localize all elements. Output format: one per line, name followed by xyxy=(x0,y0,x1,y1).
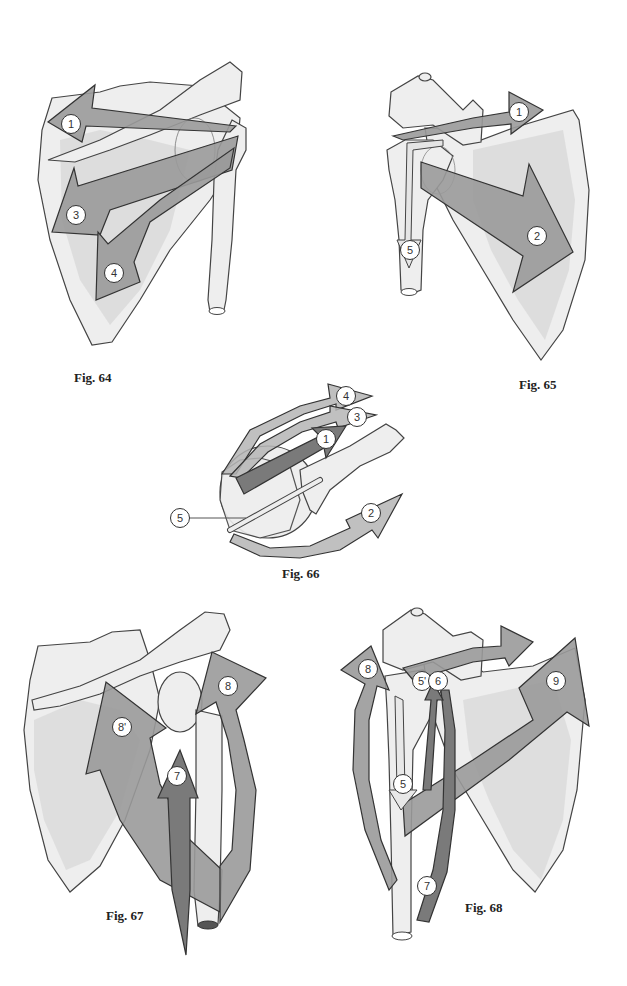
marker-5: 5 xyxy=(170,508,190,528)
figure-caption: Fig. 67 xyxy=(106,908,144,924)
marker-1: 1 xyxy=(509,102,529,122)
marker-1: 1 xyxy=(61,114,81,134)
figure-67: 8 8' 7 Fig. 67 xyxy=(0,590,313,986)
marker-1: 1 xyxy=(316,429,336,449)
marker-9: 9 xyxy=(546,671,566,691)
figure-caption: Fig. 66 xyxy=(282,566,320,582)
marker-5: 5 xyxy=(400,240,420,260)
figure-66: 4 3 1 2 5 Fig. 66 xyxy=(150,370,450,590)
figure-68: 8 5' 6 9 5 7 Fig. 68 xyxy=(313,590,627,986)
figure-caption: Fig. 68 xyxy=(465,900,503,916)
shoulder-superior-illustration xyxy=(150,370,450,590)
marker-3: 3 xyxy=(66,205,86,225)
figure-64: 1 3 4 Fig. 64 xyxy=(0,0,313,400)
marker-4: 4 xyxy=(104,263,124,283)
shoulder-anterior-illustration xyxy=(313,590,627,986)
marker-7: 7 xyxy=(417,876,437,896)
marker-4: 4 xyxy=(336,386,356,406)
marker-8: 8 xyxy=(218,676,238,696)
shoulder-posterior-illustration xyxy=(0,590,313,986)
marker-8-prime: 8' xyxy=(112,717,132,737)
figure-65: 1 2 5 Fig. 65 xyxy=(313,0,627,400)
marker-7: 7 xyxy=(167,766,187,786)
marker-3: 3 xyxy=(347,407,367,427)
figure-caption: Fig. 65 xyxy=(519,377,557,393)
shoulder-anterior-illustration xyxy=(313,0,627,400)
marker-8: 8 xyxy=(358,659,378,679)
figure-caption: Fig. 64 xyxy=(74,370,112,386)
marker-2: 2 xyxy=(527,226,547,246)
marker-5: 5 xyxy=(393,774,413,794)
shoulder-posterior-illustration xyxy=(0,0,313,400)
marker-6: 6 xyxy=(428,671,448,691)
marker-2: 2 xyxy=(361,503,381,523)
